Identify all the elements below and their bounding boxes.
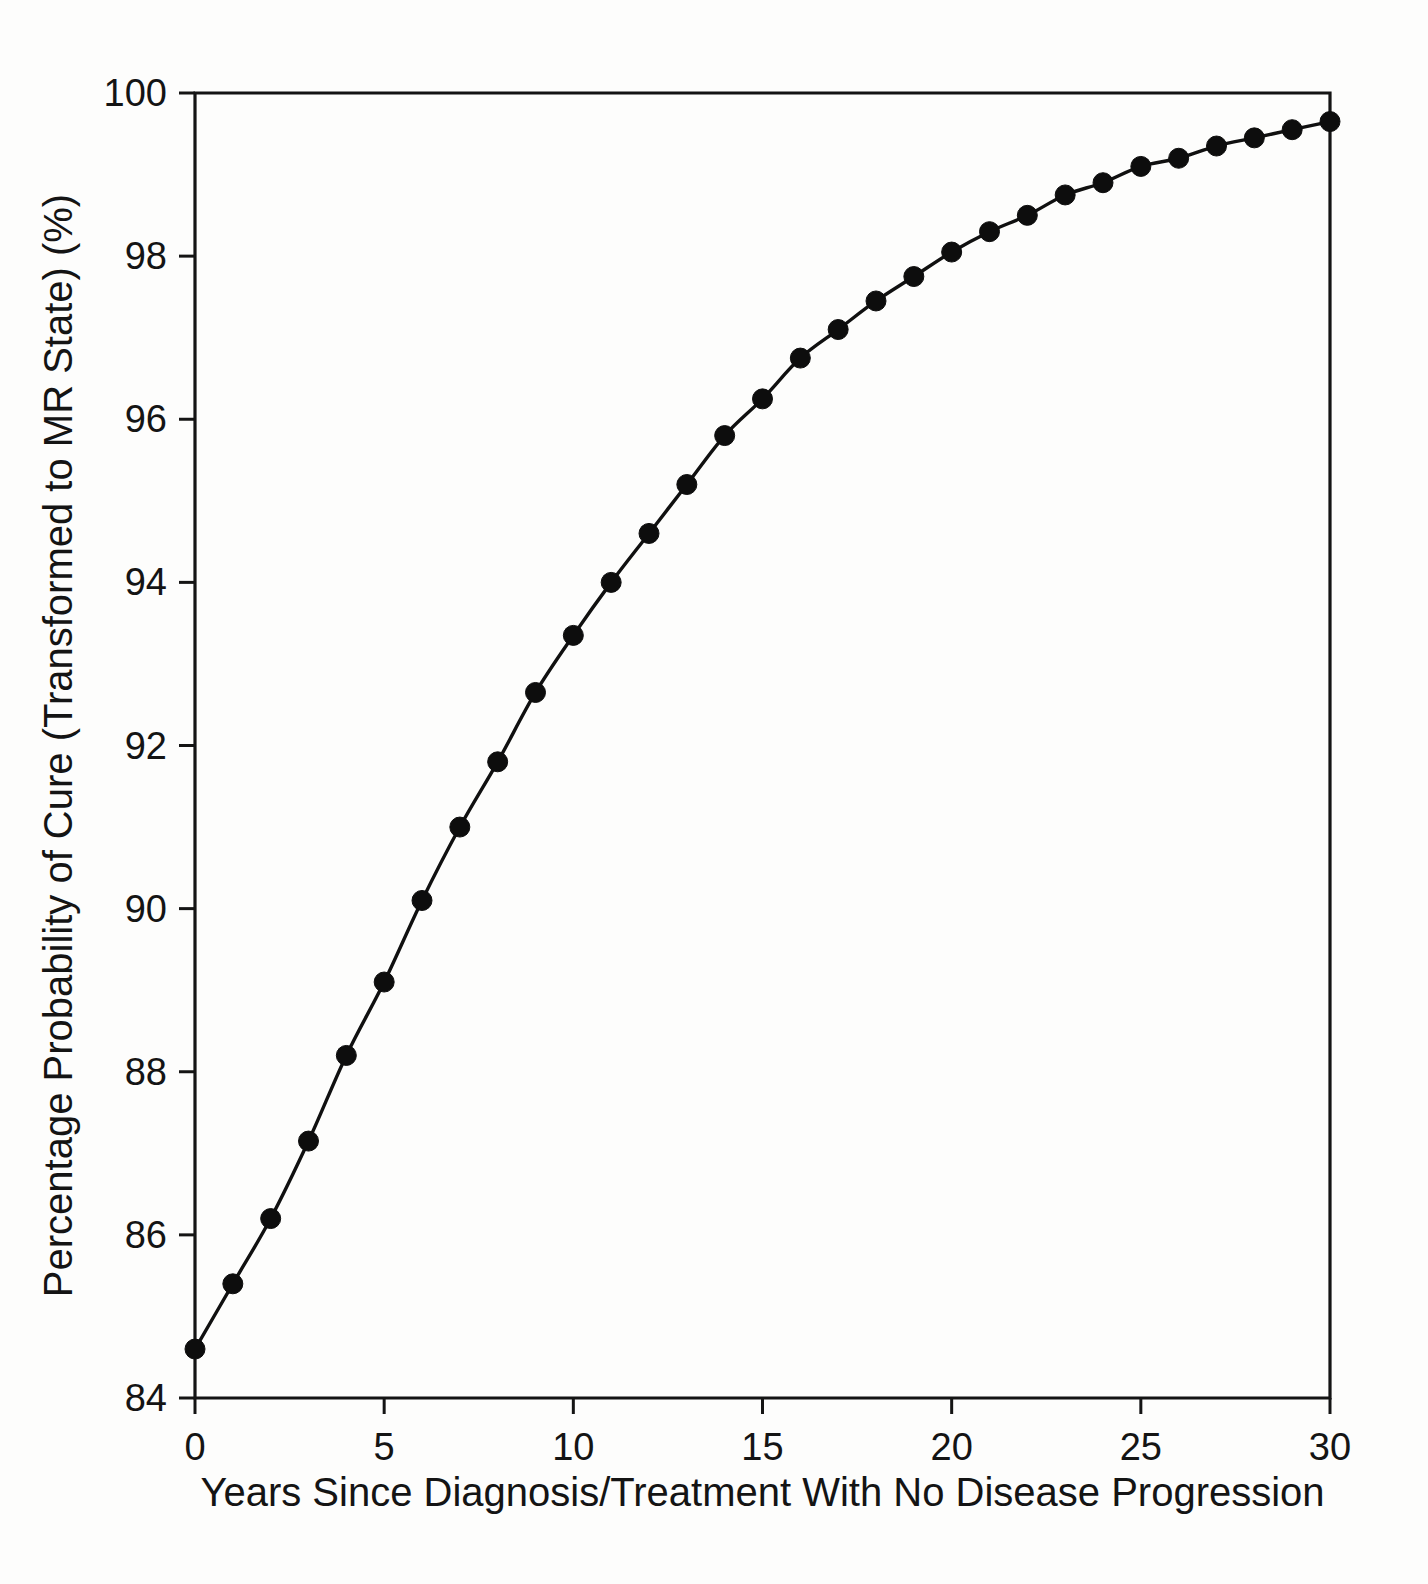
y-tick-label: 88 <box>125 1051 167 1093</box>
data-point <box>1055 185 1075 205</box>
data-point <box>677 475 697 495</box>
y-tick-label: 86 <box>125 1214 167 1256</box>
x-tick-label: 20 <box>931 1426 973 1468</box>
data-point <box>601 572 621 592</box>
x-tick-label: 0 <box>184 1426 205 1468</box>
y-tick-label: 96 <box>125 398 167 440</box>
data-point <box>790 348 810 368</box>
figure-container: 051015202530 8486889092949698100 Years S… <box>0 0 1428 1584</box>
data-point <box>866 291 886 311</box>
y-tick-label: 90 <box>125 888 167 930</box>
data-point <box>753 389 773 409</box>
data-point <box>336 1045 356 1065</box>
data-point <box>904 267 924 287</box>
data-point <box>942 242 962 262</box>
y-tick-label: 98 <box>125 235 167 277</box>
y-tick-label: 84 <box>125 1377 167 1419</box>
data-point <box>1207 136 1227 156</box>
line-chart: 051015202530 8486889092949698100 Years S… <box>0 0 1428 1584</box>
data-point <box>526 682 546 702</box>
x-tick-label: 5 <box>374 1426 395 1468</box>
data-point <box>261 1209 281 1229</box>
data-point <box>1131 156 1151 176</box>
data-point <box>450 817 470 837</box>
y-tick-label: 94 <box>125 561 167 603</box>
data-point <box>1169 148 1189 168</box>
data-point <box>299 1131 319 1151</box>
data-point <box>980 222 1000 242</box>
x-tick-label: 25 <box>1120 1426 1162 1468</box>
data-point <box>374 972 394 992</box>
data-point <box>223 1274 243 1294</box>
x-tick-label: 10 <box>552 1426 594 1468</box>
data-point <box>1244 128 1264 148</box>
y-axis-title: Percentage Probability of Cure (Transfor… <box>36 194 80 1297</box>
data-point <box>639 523 659 543</box>
data-point <box>488 752 508 772</box>
y-tick-label: 100 <box>104 72 167 114</box>
x-tick-label: 15 <box>741 1426 783 1468</box>
data-point <box>828 320 848 340</box>
data-point <box>185 1339 205 1359</box>
y-tick-label: 92 <box>125 725 167 767</box>
data-point <box>715 426 735 446</box>
data-point <box>1282 120 1302 140</box>
data-point <box>1093 173 1113 193</box>
data-point <box>412 890 432 910</box>
data-point <box>563 625 583 645</box>
x-axis-title: Years Since Diagnosis/Treatment With No … <box>200 1470 1324 1514</box>
data-point <box>1320 112 1340 132</box>
x-tick-label: 30 <box>1309 1426 1351 1468</box>
chart-background <box>0 0 1428 1584</box>
data-point <box>1017 205 1037 225</box>
